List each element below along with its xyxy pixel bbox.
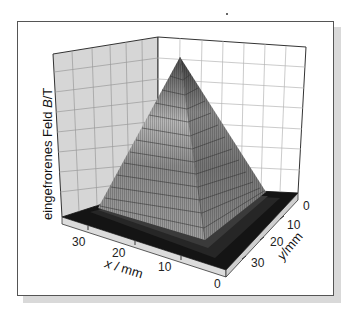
x-tick-30: 30 — [72, 235, 86, 249]
x-tick-10: 10 — [158, 260, 172, 274]
z-axis-unit: /T — [40, 88, 55, 100]
z-axis-var: B — [40, 99, 55, 108]
x-tick-0: 0 — [214, 277, 221, 291]
y-tick-0: 0 — [303, 199, 310, 213]
z-axis-prefix: eingefrorenes Feld — [40, 108, 55, 220]
x-axis-unit: / mm — [109, 257, 144, 281]
surface-plot: 30 20 10 0 x / mm 0 10 20 30 y/mm eingef… — [0, 0, 353, 315]
y-tick-30: 30 — [251, 256, 265, 270]
z-axis-label: eingefrorenes Feld B/T — [40, 88, 55, 220]
